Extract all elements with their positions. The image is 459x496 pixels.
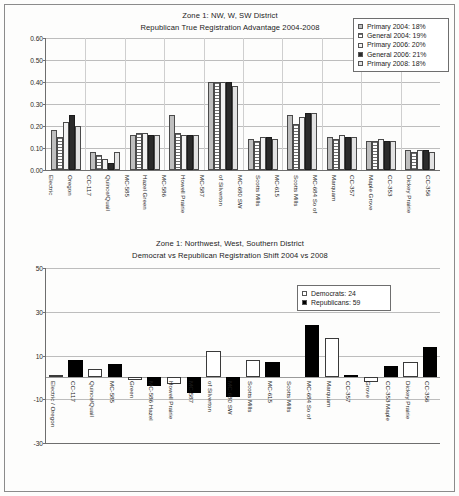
bottom-chart-legend: Democrats: 24Republicans: 59 [297, 285, 391, 311]
legend-item-label: Primary 2008: 18% [367, 59, 426, 68]
x-axis-label: CC-356 [424, 175, 431, 196]
x-axis-label: MC-615 [266, 381, 273, 403]
x-axis-label-cell: Scotts Mills [243, 379, 263, 443]
x-axis-label: of Silverton [217, 175, 224, 206]
bar [344, 375, 358, 377]
chart-republican-true-registration-advantage: Zone 1: NW, W, SW District Republican Tr… [12, 10, 448, 225]
x-axis-label-cell: Grove [361, 379, 381, 443]
group-separator [204, 38, 205, 170]
gridline [46, 356, 440, 357]
x-axis-label-cell: Scotts Mills [282, 379, 302, 443]
legend-item: General 2004: 19% [358, 31, 443, 40]
x-axis-label: MC-586 Hazel [148, 381, 155, 421]
x-axis-label: MC-585 [123, 175, 130, 197]
legend-item-label: Primary 2004: 18% [367, 22, 426, 31]
y-axis-tick-mark [43, 170, 46, 171]
y-axis-tick-label: 0.00 [30, 167, 43, 174]
x-axis-label-cell: MC-587 [196, 173, 215, 223]
x-axis-label: Green [128, 381, 135, 398]
x-axis-label: Dickey Prairie [404, 381, 411, 419]
x-axis-label-cell: Dickey Prairie [401, 379, 421, 443]
x-axis-label-cell: MC-684 So of [302, 379, 322, 443]
x-axis-label-cell: of Silverton [204, 379, 224, 443]
legend-item: Primary 2004: 18% [358, 22, 443, 31]
x-axis-label: Grove [365, 381, 372, 398]
bottom-chart-titles: Zone 1: Northwest, West, Southern Distri… [12, 238, 448, 262]
group-separator [125, 38, 126, 170]
x-axis-label-cell: Dickey Prairie [402, 173, 421, 223]
group-separator [243, 38, 244, 170]
bar-group [282, 38, 321, 170]
bar [75, 126, 81, 170]
x-axis-label-cell: MC-587 [184, 379, 204, 443]
x-axis-label-cell: MC-586 Hazel [145, 379, 165, 443]
x-axis-label: CC-117 [69, 381, 76, 402]
y-axis-tick-label: 0.30 [30, 101, 43, 108]
x-axis-label-cell: MC-684 So of [308, 173, 327, 223]
x-axis-label: of Silverton [207, 381, 214, 412]
y-axis-tick-label: 0.40 [30, 79, 43, 86]
legend-item-label: General 2004: 19% [367, 31, 426, 40]
x-axis-label-cell: CC-356 [421, 173, 440, 223]
x-axis-label-cell: MC-615 [271, 173, 290, 223]
x-axis-label: CC-357 [345, 381, 352, 402]
y-axis-tick-mark [43, 443, 46, 444]
x-axis-label: MC-586 [161, 175, 168, 197]
x-axis-label-cell: Electric [45, 173, 64, 223]
bar-group [243, 38, 282, 170]
y-axis-tick-mark [43, 268, 46, 269]
x-axis-label: Electric / Oregon [49, 381, 56, 427]
bottom-chart-title-line1: Zone 1: Northwest, West, Southern Distri… [12, 238, 448, 250]
x-axis-label: MC-680 SW [236, 175, 243, 209]
black-swatch-icon [358, 52, 363, 57]
legend-item-label: General 2006: 21% [367, 50, 426, 59]
x-axis-label: MC-684 So of [311, 175, 318, 213]
x-axis-label-cell: Green [125, 379, 145, 443]
white-swatch-icon [358, 43, 363, 48]
y-axis-tick-mark [43, 356, 46, 357]
x-axis-label: CC-353 [386, 175, 393, 196]
bar [403, 362, 417, 377]
y-axis-tick-label: 0.10 [30, 145, 43, 152]
y-axis-tick-label: 0.20 [30, 123, 43, 130]
x-axis-label: MC-684 So of [305, 381, 312, 419]
x-axis-label: Dickey Prairie [405, 175, 412, 213]
bar-group [46, 38, 85, 170]
bar-group [204, 38, 243, 170]
bar [390, 141, 396, 170]
x-axis-label: MC-615 [274, 175, 281, 197]
x-axis-label-cell: MC-585 [120, 173, 139, 223]
x-axis-label-cell: MC-585 [105, 379, 125, 443]
x-axis-label: MC-585 [108, 381, 115, 403]
bottom-chart-x-axis-labels: Electric / OregonCC-117Quince/QuailMC-58… [46, 379, 440, 443]
x-axis-label: CC-357 [349, 175, 356, 196]
legend-item-label: Democrats: 24 [311, 289, 356, 298]
x-axis-label-cell: MC-680 SW [223, 379, 243, 443]
x-axis-label: Scotts Mills [292, 175, 299, 206]
legend-item: Republicans: 59 [302, 298, 385, 307]
bottom-chart-title-line2: Democrat vs Republican Registration Shif… [12, 250, 448, 262]
x-axis-label-cell: CC-117 [66, 379, 86, 443]
x-axis-label: CC-117 [85, 175, 92, 196]
x-axis-label-cell: Quince/Quail [101, 173, 120, 223]
bar [154, 135, 160, 170]
bar [423, 347, 437, 378]
x-axis-label-cell: Maple Grove [365, 173, 384, 223]
bar [108, 364, 122, 377]
bar-group [125, 38, 164, 170]
x-axis-label-cell: CC-357 [342, 379, 362, 443]
x-axis-label: MC-587 [187, 381, 194, 403]
bar [325, 338, 339, 377]
x-axis-label: Scotts Mills [246, 381, 253, 412]
bar [193, 135, 199, 170]
bar [49, 375, 63, 377]
x-axis-label-cell: MC-615 [263, 379, 283, 443]
x-axis-label-cell: Marquam [322, 379, 342, 443]
x-axis-label-cell: CC-353 Maple [381, 379, 401, 443]
top-chart-x-axis-labels: ElectricOregonCC-117Quince/QuailMC-585Ha… [45, 173, 440, 223]
bar [246, 360, 260, 378]
x-axis-label: Howell Prairie [167, 381, 174, 419]
pale-gray-swatch-icon [358, 61, 363, 66]
bar [114, 152, 120, 170]
x-axis-label-cell: of Silverton [214, 173, 233, 223]
